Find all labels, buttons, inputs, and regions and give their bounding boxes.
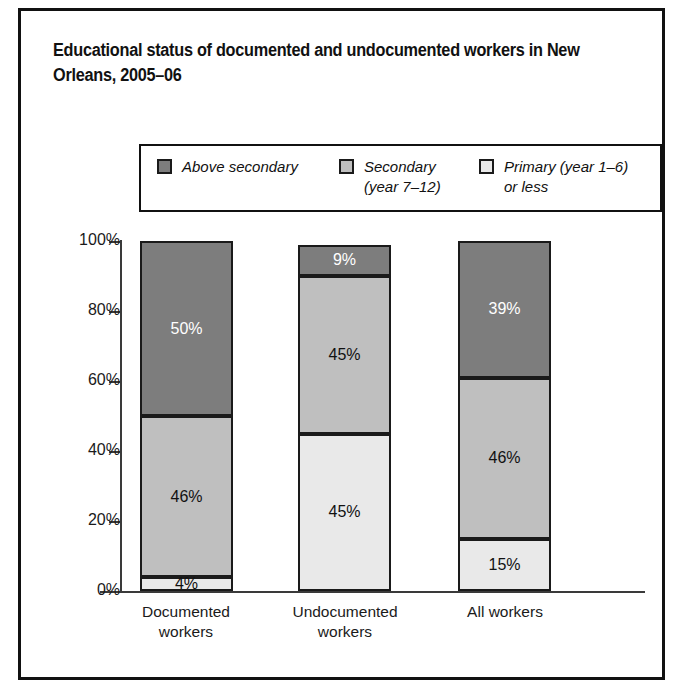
bar-segment-label: 50%	[170, 321, 202, 337]
y-axis-tick-label: 20%	[58, 511, 120, 529]
x-axis-category-label: All workers	[415, 602, 595, 622]
bar-2: 15%46%39%	[458, 0, 551, 667]
bar-segment: 46%	[458, 378, 551, 539]
bar-segment-label: 15%	[488, 557, 520, 573]
bar-0: 4%46%50%	[140, 0, 233, 667]
bar-segment-label: 9%	[333, 252, 356, 268]
x-axis-category-label: Undocumented workers	[255, 602, 435, 642]
bar-segment-label: 45%	[328, 347, 360, 363]
bar-segment-label: 46%	[170, 489, 202, 505]
bar-segment-label: 39%	[488, 301, 520, 317]
bar-segment: 15%	[458, 539, 551, 592]
bar-1: 45%45%9%	[298, 0, 391, 667]
bar-segment: 45%	[298, 434, 391, 592]
y-axis-tick-label: 40%	[58, 441, 120, 459]
bar-segment: 4%	[140, 577, 233, 591]
bar-segment-label: 46%	[488, 450, 520, 466]
bar-segment: 45%	[298, 276, 391, 434]
bar-segment-label: 4%	[175, 576, 198, 592]
bar-segment: 50%	[140, 241, 233, 416]
y-axis-tick-label: 80%	[58, 301, 120, 319]
bar-segment: 46%	[140, 416, 233, 577]
x-axis-category-label: Documented workers	[96, 602, 276, 642]
bar-segment-label: 45%	[328, 504, 360, 520]
y-axis-tick-label: 0%	[58, 581, 120, 599]
bar-segment: 9%	[298, 245, 391, 277]
y-axis-line	[120, 240, 122, 593]
y-axis-tick-label: 60%	[58, 371, 120, 389]
y-axis-tick-label: 100%	[58, 231, 120, 249]
bar-segment: 39%	[458, 241, 551, 378]
